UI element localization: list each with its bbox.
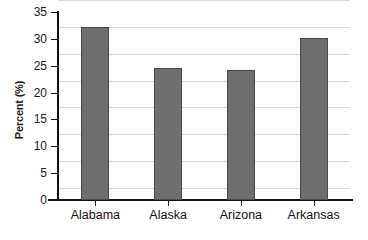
y-axis-tick-label: 5 <box>21 167 47 179</box>
x-axis-tick <box>95 201 96 206</box>
y-axis-tick-label: 0 <box>21 194 47 206</box>
x-axis-tick <box>314 201 315 206</box>
plot-area <box>59 12 350 200</box>
y-axis-tick <box>51 119 58 120</box>
y-axis-tick <box>51 93 58 94</box>
bar-arizona <box>227 70 255 200</box>
bar-chart: Percent (%) 35302520151050 AlabamaAlaska… <box>0 0 368 240</box>
category-label-arizona: Arizona <box>205 209 278 222</box>
y-axis-tick <box>51 173 58 174</box>
y-axis-tick <box>51 66 58 67</box>
y-axis-tick-label: 15 <box>21 113 47 125</box>
y-axis-tick <box>51 200 58 201</box>
y-axis-tick-label: 10 <box>21 140 47 152</box>
bar-arkansas <box>300 38 328 200</box>
category-label-alaska: Alaska <box>132 209 205 222</box>
category-label-arkansas: Arkansas <box>277 209 350 222</box>
y-axis-tick-label: 20 <box>21 87 47 99</box>
y-axis-tick-label: 35 <box>21 6 47 18</box>
gridline <box>59 0 350 1</box>
x-axis-tick <box>168 201 169 206</box>
y-axis-tick-label: 25 <box>21 60 47 72</box>
y-axis-tick <box>51 39 58 40</box>
bar-alabama <box>81 27 109 200</box>
x-axis-tick <box>241 201 242 206</box>
category-label-alabama: Alabama <box>59 209 132 222</box>
y-axis-tick <box>51 146 58 147</box>
y-axis-tick-label: 30 <box>21 33 47 45</box>
bar-alaska <box>154 68 182 200</box>
y-axis-tick <box>51 12 58 13</box>
